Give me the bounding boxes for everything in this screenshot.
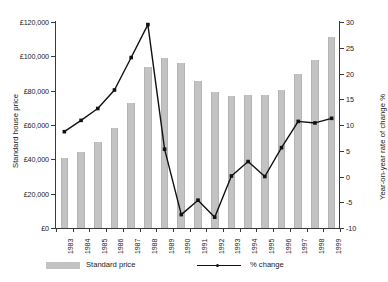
right-axis-tick	[340, 74, 344, 75]
x-axis-tick-label: 1989	[168, 239, 175, 254]
right-axis-tick-label: 30	[346, 18, 354, 27]
left-axis-line	[55, 21, 56, 229]
right-axis-tick	[340, 125, 344, 126]
left-axis-tick-label: £40,000	[24, 155, 49, 164]
right-axis-tick	[340, 228, 344, 229]
right-axis-tick-label: 25	[346, 43, 354, 52]
x-axis-tick	[290, 229, 291, 232]
x-axis-tick	[156, 229, 157, 232]
x-axis-tick	[273, 229, 274, 232]
line-marker	[113, 88, 117, 92]
left-axis-tick	[51, 159, 55, 160]
bar	[311, 60, 319, 228]
right-axis-tick-label: 10	[346, 121, 354, 130]
line-marker	[129, 56, 133, 60]
left-axis-tick-label: £20,000	[24, 189, 49, 198]
right-axis-tick-label: 0	[346, 172, 350, 181]
left-axis-tick-label: £0	[41, 224, 49, 233]
left-axis-tick	[51, 91, 55, 92]
bar	[294, 74, 302, 228]
x-axis-tick-label: 1993	[234, 239, 241, 254]
line-marker	[79, 119, 83, 123]
right-axis-tick-label: -5	[346, 198, 352, 207]
line-marker	[146, 23, 150, 27]
x-axis-tick	[256, 229, 257, 232]
left-axis-tick	[51, 56, 55, 57]
left-axis-ticks: £0£20,000£40,000£60,000£80,000£100,000£1…	[0, 0, 49, 282]
chart-legend: Standard price % change	[0, 258, 388, 274]
bar	[194, 81, 202, 228]
x-axis-tick	[223, 229, 224, 232]
left-axis-tick	[51, 228, 55, 229]
x-axis-tick-label: 1990	[184, 239, 191, 254]
bar	[127, 103, 135, 228]
left-axis-tick-label: £60,000	[24, 121, 49, 130]
x-axis-tick	[73, 229, 74, 232]
right-axis-tick-label: 20	[346, 69, 354, 78]
x-axis-tick-label: 1987	[134, 239, 141, 254]
x-axis-tick-label: 1984	[84, 239, 91, 254]
bar	[177, 63, 185, 228]
x-axis-tick	[190, 229, 191, 232]
legend-line-label: % change	[250, 260, 284, 269]
legend-line-marker	[216, 264, 219, 267]
x-axis-tick	[56, 229, 57, 232]
right-axis-tick-label: -10	[346, 224, 356, 233]
bar	[161, 58, 169, 228]
x-axis-tick	[106, 229, 107, 232]
right-axis-tick	[340, 48, 344, 49]
right-axis-tick-label: 15	[346, 95, 354, 104]
bar	[144, 67, 152, 228]
x-axis-tick	[340, 229, 341, 232]
bottom-axis-line	[55, 228, 340, 229]
x-axis-tick	[307, 229, 308, 232]
x-axis-tick-label: 1983	[67, 239, 74, 254]
x-axis-tick	[173, 229, 174, 232]
line-marker	[63, 130, 67, 134]
x-axis-tick	[323, 229, 324, 232]
left-axis-tick	[51, 125, 55, 126]
x-axis-tick-label: 1998	[318, 239, 325, 254]
left-axis-title: Standard house price	[11, 94, 20, 168]
x-axis-tick-label: 1996	[285, 239, 292, 254]
left-axis-tick-label: £80,000	[24, 86, 49, 95]
bar	[228, 96, 236, 228]
right-axis-tick	[340, 177, 344, 178]
x-axis-tick	[89, 229, 90, 232]
right-axis-tick	[340, 202, 344, 203]
x-axis-tick-label: 1991	[201, 239, 208, 254]
x-axis-tick	[140, 229, 141, 232]
bar	[61, 158, 69, 228]
x-axis-tick-label: 1999	[335, 239, 342, 254]
bar	[328, 37, 336, 228]
line-marker	[96, 107, 100, 111]
right-axis-title: Year-on-year rate of change %	[378, 94, 387, 200]
x-axis-tick	[206, 229, 207, 232]
x-axis-tick	[123, 229, 124, 232]
x-axis-tick	[240, 229, 241, 232]
bar	[111, 128, 119, 228]
legend-bar-swatch	[46, 262, 80, 269]
left-axis-tick	[51, 22, 55, 23]
bar	[94, 142, 102, 228]
legend-bar-label: Standard price	[86, 260, 135, 269]
bar	[244, 95, 252, 228]
left-axis-tick-label: £100,000	[20, 52, 49, 61]
bar	[77, 152, 85, 228]
bar	[278, 90, 286, 228]
right-axis-tick	[340, 99, 344, 100]
right-axis-tick	[340, 22, 344, 23]
x-axis-tick-label: 1986	[117, 239, 124, 254]
right-axis-tick	[340, 151, 344, 152]
x-axis-tick-label: 1997	[301, 239, 308, 254]
x-axis-tick-label: 1992	[218, 239, 225, 254]
left-axis-tick-label: £120,000	[20, 18, 49, 27]
x-axis-tick-label: 1995	[268, 239, 275, 254]
x-axis-tick-label: 1988	[151, 239, 158, 254]
bar	[211, 92, 219, 228]
right-axis-ticks: -10-5051015202530	[346, 0, 372, 282]
bar	[261, 95, 269, 228]
left-axis-tick	[51, 194, 55, 195]
x-axis-tick-label: 1994	[251, 239, 258, 254]
right-axis-tick-label: 5	[346, 146, 350, 155]
